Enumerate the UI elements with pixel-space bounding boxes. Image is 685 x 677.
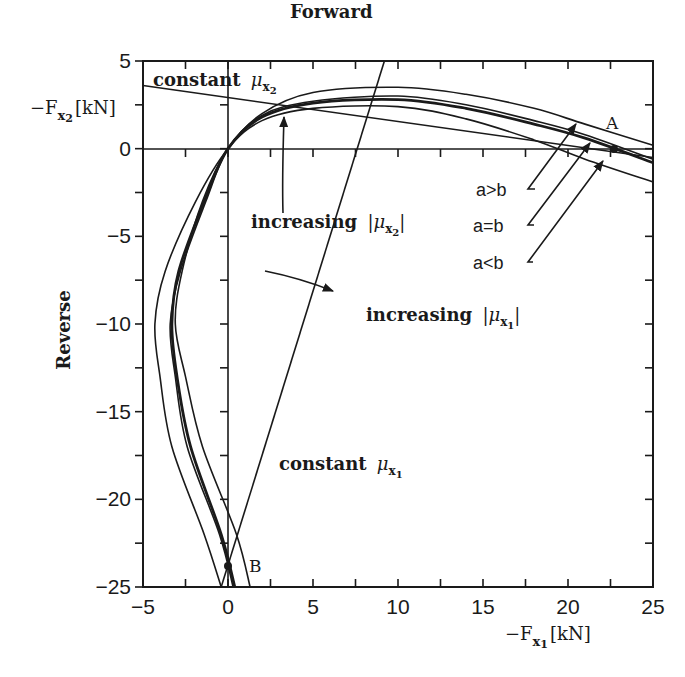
curve-a-b <box>170 96 653 587</box>
x-tick-label: 0 <box>222 595 234 618</box>
axis-tick-labels: −50510152025−25−20−15−10−505 <box>95 49 664 618</box>
increasing-mu-x2-label: increasing |μx2| <box>251 211 405 238</box>
y-tick-label: −5 <box>107 224 131 247</box>
curve-constant-mu-x1-line <box>221 61 384 587</box>
increasing-mu-x1-arrow <box>265 271 333 291</box>
point-A-marker <box>610 145 618 153</box>
x-tick-label: 10 <box>386 595 409 618</box>
a-eq-b-label: a=b <box>473 216 504 236</box>
a-gt-b-label: a>b <box>476 180 507 200</box>
a-lt-b-label: a<b <box>473 253 504 273</box>
a-eq-b-leader <box>528 143 590 225</box>
x-tick-label: −5 <box>131 595 155 618</box>
x-tick-label: 25 <box>641 595 664 618</box>
y-tick-label: −15 <box>95 400 131 423</box>
point-A-label: A <box>605 113 619 133</box>
point-B-marker <box>224 562 232 570</box>
x-tick-label: 20 <box>556 595 579 618</box>
y-tick-label: −10 <box>95 312 131 335</box>
x-tick-label: 5 <box>307 595 319 618</box>
forward-label: Forward <box>290 1 373 22</box>
x-tick-label: 15 <box>471 595 494 618</box>
increasing-mu-x1-label: increasing |μx1| <box>366 304 520 331</box>
constant-mu-x1-label: constant μx1 <box>279 453 403 480</box>
point-B-label: B <box>249 556 262 576</box>
x-axis-label: −Fx1[kN] <box>505 623 591 651</box>
increasing-mu-x2-arrow <box>283 117 284 213</box>
y-tick-label: −25 <box>95 575 131 598</box>
y-axis-label: −Fx2[kN] <box>30 97 116 125</box>
constant-mu-x2-label: constant μx2 <box>153 69 277 96</box>
y-tick-label: −20 <box>95 487 131 510</box>
curve-outer-envelope <box>175 87 653 587</box>
y-tick-label: 0 <box>119 137 131 160</box>
y-tick-label: 5 <box>119 49 131 72</box>
chart-canvas: −50510152025−25−20−15−10−505 Forward con… <box>0 0 685 677</box>
reverse-label: Reverse <box>53 290 74 369</box>
